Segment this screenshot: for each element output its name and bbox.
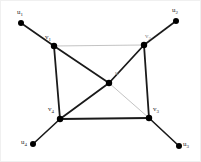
label-u: u [115,70,119,77]
graph-edge-v2-v3 [144,45,149,118]
graph-vertex-u4 [30,141,36,147]
graph-vertex-v3 [146,115,152,121]
graph-edge-v4-v1 [54,46,60,119]
label-u4: u4 [21,139,27,146]
graph-vertex-v4 [57,116,63,122]
label-u1: u1 [17,9,23,16]
graph-canvas [1,1,201,162]
graph-figure: u1u2u3u4v1v2v3v4u [0,0,201,162]
graph-edge-v4-u4 [33,119,60,144]
graph-vertex-u2 [173,18,179,24]
graph-vertex-v1 [51,43,57,49]
graph-vertex-v2 [141,42,147,48]
graph-vertex-u1 [18,20,24,26]
graph-edge-u-v2 [109,45,144,83]
graph-edge-v3-v4 [60,118,149,119]
graph-edge-v3-u3 [149,118,179,146]
graph-vertex-u [106,80,112,86]
label-v3: v3 [153,106,159,113]
graph-vertex-u3 [176,143,182,149]
label-v2: v2 [145,33,151,40]
graph-edge-u-v1 [54,46,109,83]
label-u3: u3 [183,141,189,148]
graph-edge-v1-v2 [54,45,144,46]
graph-edge-u-v4 [60,83,109,119]
label-u2: u2 [172,7,178,14]
graph-edge-u-v3 [109,83,149,118]
label-v1: v1 [45,34,51,41]
label-v4: v4 [48,106,54,113]
